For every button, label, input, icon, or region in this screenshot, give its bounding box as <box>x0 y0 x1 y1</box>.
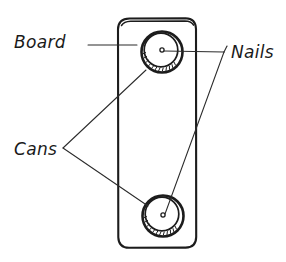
diagram-canvas: Board Nails Cans <box>0 0 286 262</box>
nail-bottom-head <box>161 213 165 217</box>
label-cans: Cans <box>14 139 57 159</box>
label-nails: Nails <box>231 42 274 62</box>
board-cans-nails-diagram: Board Nails Cans <box>0 0 286 262</box>
can-top <box>142 32 183 73</box>
nails-leader-tick <box>224 46 227 52</box>
can-bottom <box>143 196 184 237</box>
label-board: Board <box>14 32 66 52</box>
nail-top-head <box>160 48 164 52</box>
